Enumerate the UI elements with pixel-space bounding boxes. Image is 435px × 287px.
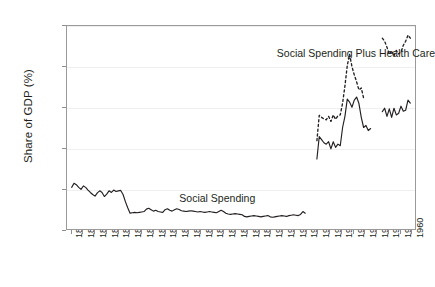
- x-axis-tick-mark: [329, 230, 330, 234]
- x-axis-tick-mark: [153, 230, 154, 234]
- x-axis-tick-mark: [188, 230, 189, 234]
- x-axis-tick-mark: [212, 230, 213, 234]
- x-axis-tick-mark: [82, 230, 83, 234]
- x-axis-tick-mark: [223, 230, 224, 234]
- x-axis-tick-mark: [270, 230, 271, 234]
- x-axis-tick-mark: [400, 230, 401, 234]
- x-axis-tick-mark: [141, 230, 142, 234]
- x-axis-tick-mark: [247, 230, 248, 234]
- x-axis-tick-mark: [306, 230, 307, 234]
- x-axis-tick-mark: [165, 230, 166, 234]
- plot-area: Social SpendingSocial Spending Plus Heal…: [66, 25, 416, 230]
- x-axis-tick-mark: [341, 230, 342, 234]
- x-axis-tick-mark: [259, 230, 260, 234]
- x-axis-tick-mark: [235, 230, 236, 234]
- x-axis-tick-mark: [388, 230, 389, 234]
- x-axis-tick-mark: [129, 230, 130, 234]
- x-axis-tick-mark: [353, 230, 354, 234]
- y-axis-title: Share of GDP (%): [22, 36, 34, 196]
- x-axis-tick-mark: [200, 230, 201, 234]
- y-axis-tick-mark: [62, 230, 66, 231]
- x-axis-tick-mark: [364, 230, 365, 234]
- x-axis-tick-mark: [376, 230, 377, 234]
- x-axis-tick-mark: [294, 230, 295, 234]
- x-axis-tick-mark: [411, 230, 412, 234]
- x-axis-tick-label: 1960: [415, 218, 425, 238]
- x-axis-tick-mark: [94, 230, 95, 234]
- x-axis-tick-mark: [118, 230, 119, 234]
- x-axis-tick-mark: [71, 230, 72, 234]
- social-spending-label: Social Spending: [179, 192, 255, 204]
- annotation-layer: Social SpendingSocial Spending Plus Heal…: [67, 26, 415, 229]
- x-axis-tick-mark: [282, 230, 283, 234]
- x-axis-tick-mark: [176, 230, 177, 234]
- social-spending-plus-health-care-label: Social Spending Plus Health Care: [277, 47, 435, 59]
- x-axis-tick-mark: [317, 230, 318, 234]
- x-axis-tick-mark: [106, 230, 107, 234]
